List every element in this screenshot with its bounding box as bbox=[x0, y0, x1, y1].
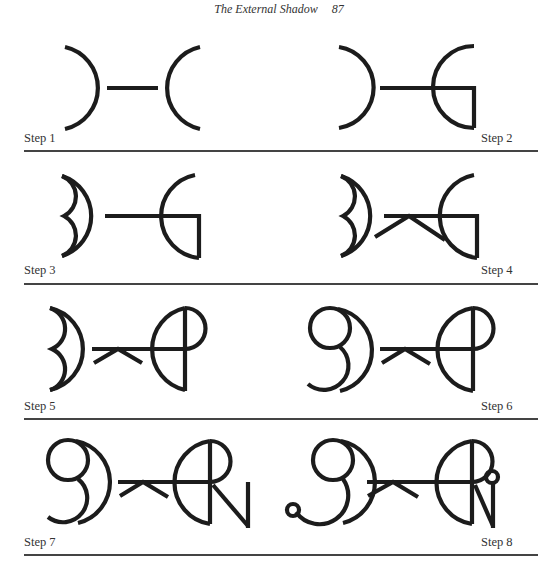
step-1-sigil bbox=[65, 47, 200, 129]
step-7-sigil bbox=[48, 440, 248, 528]
step-4-sigil bbox=[341, 175, 477, 258]
divider-rule-2 bbox=[24, 283, 538, 285]
divider-rule-3 bbox=[24, 418, 538, 420]
divider-rule-1 bbox=[24, 150, 538, 152]
step-5-label: Step 5 bbox=[24, 399, 56, 414]
step-8-label: Step 8 bbox=[481, 535, 513, 550]
step-3-sigil bbox=[62, 175, 199, 258]
step-2-sigil bbox=[339, 46, 474, 128]
step-1-label: Step 1 bbox=[24, 131, 56, 146]
step-6-sigil bbox=[308, 308, 493, 391]
step-8-sigil bbox=[287, 440, 498, 528]
step-2-label: Step 2 bbox=[481, 131, 513, 146]
step-5-sigil bbox=[50, 308, 206, 391]
divider-rule-4 bbox=[24, 554, 538, 556]
step-7-label: Step 7 bbox=[24, 535, 56, 550]
step-3-label: Step 3 bbox=[24, 263, 56, 278]
step-4-label: Step 4 bbox=[481, 263, 513, 278]
step-6-label: Step 6 bbox=[481, 399, 513, 414]
